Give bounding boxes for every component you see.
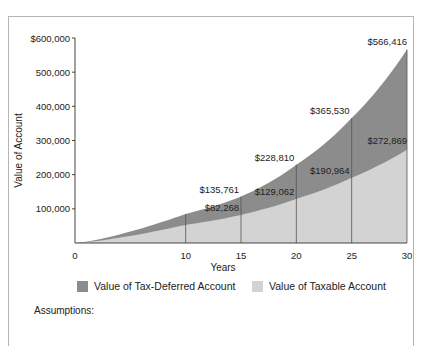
data-label-taxable: $129,062 (255, 186, 295, 197)
y-tick-label: 400,000 (36, 101, 70, 112)
y-tick-label: 300,000 (36, 135, 70, 146)
data-label-tax-deferred: $228,810 (255, 152, 295, 163)
legend-label-taxable: Value of Taxable Account (269, 280, 386, 292)
x-tick-label: 10 (180, 250, 191, 261)
x-tick-label: 20 (291, 250, 302, 261)
x-tick-label: 25 (346, 250, 357, 261)
x-axis-title: Years (210, 262, 235, 273)
legend-item-taxable: Value of Taxable Account (252, 280, 386, 292)
x-tick-label: 30 (402, 250, 413, 261)
data-label-tax-deferred: $566,416 (367, 36, 407, 47)
legend-label-tax-deferred: Value of Tax-Deferred Account (94, 280, 235, 292)
data-label-tax-deferred: $135,761 (199, 184, 239, 195)
data-label-taxable: $190,964 (310, 165, 350, 176)
y-tick-label: 200,000 (36, 169, 70, 180)
legend-swatch-light (252, 281, 263, 292)
data-label-taxable: $82,268 (205, 202, 239, 213)
legend-item-tax-deferred: Value of Tax-Deferred Account (77, 280, 235, 292)
data-label-tax-deferred: $365,530 (310, 105, 350, 116)
legend-swatch-dark (77, 281, 88, 292)
x-tick-label: 0 (72, 250, 77, 261)
y-tick-label: $600,000 (30, 33, 70, 44)
y-tick-label: 500,000 (36, 67, 70, 78)
legend: Value of Tax-Deferred Account Value of T… (0, 280, 423, 296)
assumptions-heading: Assumptions: (34, 305, 94, 316)
data-label-taxable: $272,869 (367, 135, 407, 146)
y-axis-title: Value of Account (13, 113, 24, 188)
x-tick-label: 15 (236, 250, 247, 261)
y-tick-label: 100,000 (36, 203, 70, 214)
